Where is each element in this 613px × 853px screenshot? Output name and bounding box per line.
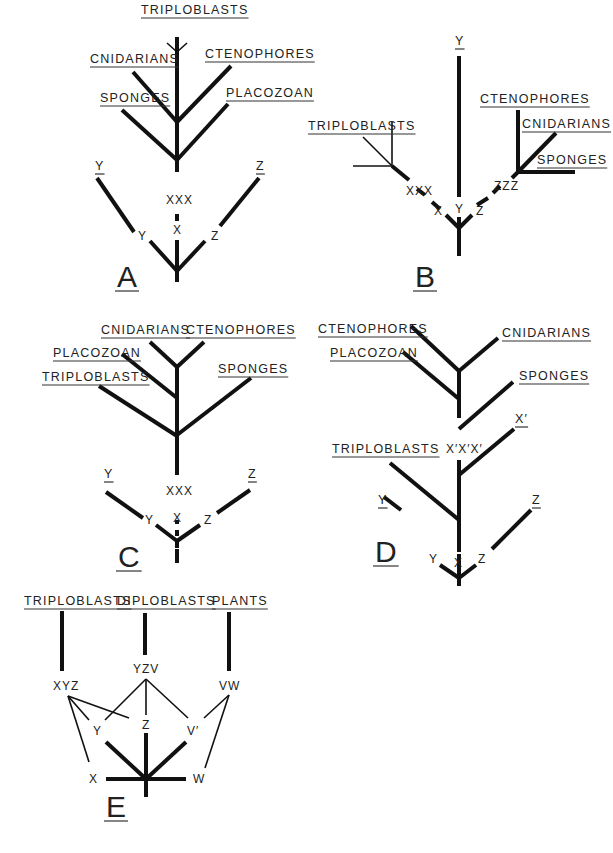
taxon-label: SPONGES: [100, 91, 170, 105]
taxon-label: SPONGES: [519, 369, 589, 383]
panel-a-tree: TRIPLOBLASTSCNIDARIANSCTENOPHORESSPONGES…: [90, 3, 315, 293]
panel-letter: D: [375, 535, 397, 568]
character-label: Y: [93, 724, 102, 738]
taxon-label: CTENOPHORES: [205, 47, 315, 61]
character-label: VW: [219, 679, 240, 693]
character-label: XXX: [166, 484, 193, 498]
character-label: Y: [429, 552, 438, 566]
character-label: X: [173, 223, 182, 237]
branch-line: [512, 172, 518, 178]
character-label: XYZ: [53, 679, 79, 693]
branch-line: [459, 338, 498, 371]
panel-letter: C: [118, 540, 140, 573]
thin-branch-line: [146, 679, 188, 718]
character-label: Y: [138, 229, 147, 243]
taxon-label: TRIPLOBLASTS: [24, 594, 132, 608]
taxon-label: Z: [532, 493, 541, 507]
branch-line: [97, 178, 134, 232]
branch-line: [177, 525, 200, 541]
taxon-label: CNIDARIANS: [522, 117, 611, 131]
character-label: Y: [455, 202, 464, 216]
panel-e-tree: TRIPLOBLASTSDIPLOBLASTSPLANTSYZVXYZVWYZV…: [24, 594, 268, 823]
thin-branch-line: [363, 137, 392, 166]
taxon-label: PLANTS: [212, 594, 268, 608]
branch-line: [177, 241, 205, 271]
branch-line: [106, 492, 143, 518]
taxon-label: TRIPLOBLASTS: [42, 370, 150, 384]
branch-line: [220, 178, 259, 226]
taxon-label: PLACOZOAN: [330, 346, 418, 360]
character-label: XXX: [166, 193, 193, 207]
branch-line: [106, 742, 146, 779]
taxon-label: CNIDARIANS: [90, 52, 179, 66]
character-label: X: [434, 204, 443, 218]
thin-branch-line: [105, 679, 146, 720]
branch-line: [217, 490, 250, 513]
branch-line: [392, 166, 409, 180]
panel-letter: E: [106, 790, 126, 823]
taxon-label: PLACOZOAN: [226, 86, 314, 100]
taxon-label: SPONGES: [537, 153, 607, 167]
branch-line: [459, 382, 513, 429]
character-label: W: [193, 772, 205, 786]
taxon-label: TRIPLOBLASTS: [308, 119, 416, 133]
panel-c-tree: CNIDARIANSCTENOPHORESPLACOZOANSPONGESTRI…: [42, 323, 296, 573]
taxon-label: X′: [515, 412, 528, 426]
panel-b-tree: YCTENOPHORESCNIDARIANSSPONGESTRIPLOBLAST…: [308, 34, 611, 293]
taxon-label: DIPLOBLASTS: [117, 594, 216, 608]
branch-line: [390, 463, 459, 520]
character-label: YZV: [133, 662, 159, 676]
taxon-label: CNIDARIANS: [502, 326, 591, 340]
panel-letter: A: [117, 260, 137, 293]
taxon-label: TRIPLOBLASTS: [141, 3, 249, 17]
taxon-label: Y: [378, 493, 388, 507]
branch-line: [150, 241, 177, 271]
taxon-label: TRIPLOBLASTS: [332, 442, 440, 456]
thin-branch-line: [68, 696, 89, 762]
taxon-label: Y: [455, 34, 465, 48]
branch-line: [146, 742, 186, 779]
character-label: Z: [142, 718, 150, 732]
branch-line: [99, 386, 177, 436]
branch-line: [177, 378, 251, 435]
taxon-label: SPONGES: [218, 362, 288, 376]
character-label: Y: [145, 513, 154, 527]
character-label: X: [89, 772, 98, 786]
taxon-label: CTENOPHORES: [480, 92, 590, 106]
panel-letter: B: [415, 260, 435, 293]
character-label: XXX: [406, 184, 433, 198]
taxon-label: Y: [104, 467, 114, 481]
character-label: Z: [476, 204, 484, 218]
branch-line: [122, 110, 177, 160]
taxon-label: Z: [256, 159, 265, 173]
character-label: X: [454, 556, 463, 570]
character-label: X′X′X′: [446, 442, 483, 456]
taxon-label: Z: [248, 467, 257, 481]
branch-line: [492, 510, 531, 549]
character-label: V′: [187, 724, 199, 738]
branch-line: [156, 525, 177, 541]
phylogeny-figure: TRIPLOBLASTSCNIDARIANSCTENOPHORESSPONGES…: [0, 0, 613, 853]
taxon-label: PLACOZOAN: [53, 346, 141, 360]
character-label: Z: [204, 513, 212, 527]
branch-line: [150, 342, 177, 367]
branch-line: [177, 342, 204, 367]
taxon-label: CTENOPHORES: [318, 322, 428, 336]
taxon-label: CTENOPHORES: [186, 323, 296, 337]
panel-d-tree: CTENOPHORESCNIDARIANSPLACOZOANSPONGESX′T…: [318, 322, 591, 586]
character-label: Z: [211, 229, 219, 243]
branch-line: [177, 66, 231, 122]
character-label: ZZZ: [494, 179, 519, 193]
character-label: X: [173, 511, 182, 525]
character-label: Z: [478, 552, 486, 566]
taxon-label: Y: [95, 159, 105, 173]
taxon-label: CNIDARIANS: [101, 323, 190, 337]
